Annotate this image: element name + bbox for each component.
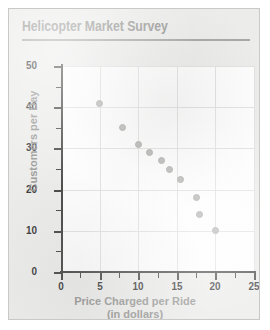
data-point (166, 166, 173, 173)
data-point (193, 194, 200, 201)
gridline-horizontal (61, 107, 254, 108)
gridline-vertical (177, 66, 178, 272)
y-tick-major (54, 107, 61, 109)
y-tick-minor (56, 210, 61, 211)
data-point (135, 141, 142, 148)
x-axis-title-line1: Price Charged per Ride (9, 295, 260, 308)
data-point (96, 100, 103, 107)
x-tick-label: 10 (127, 280, 149, 292)
x-tick-major (100, 273, 102, 280)
y-tick-major (54, 190, 61, 192)
gridline-vertical (254, 66, 255, 272)
page-title: Helicopter Market Survey (22, 18, 168, 34)
y-tick-minor (56, 169, 61, 170)
x-tick-major (215, 273, 217, 280)
x-tick-minor (158, 273, 159, 278)
y-tick-label: 50 (17, 59, 37, 71)
x-axis-title: Price Charged per Ride (in dollars) (9, 295, 260, 320)
title-divider (22, 39, 250, 41)
y-tick-major (54, 272, 61, 274)
x-tick-major (138, 273, 140, 280)
data-point (177, 176, 184, 183)
x-tick-label: 0 (50, 280, 72, 292)
gridline-vertical (215, 66, 216, 272)
x-tick-label: 25 (243, 280, 260, 292)
x-tick-minor (119, 273, 120, 278)
plot-area (61, 66, 254, 272)
x-tick-minor (196, 273, 197, 278)
y-tick-major (54, 231, 61, 233)
gridline-horizontal (61, 231, 254, 232)
y-tick-label: 0 (17, 265, 37, 277)
gridline-horizontal (61, 148, 254, 149)
x-tick-label: 20 (205, 280, 227, 292)
x-axis-title-line2: (in dollars) (9, 308, 260, 320)
chart-card: Helicopter Market Survey 010203040500510… (8, 8, 260, 320)
x-tick-label: 5 (89, 280, 111, 292)
gridline-horizontal (61, 190, 254, 191)
y-tick-label: 10 (17, 224, 37, 236)
y-tick-major (54, 148, 61, 150)
y-axis-title: Customers per Day (27, 76, 39, 206)
x-tick-minor (235, 273, 236, 278)
y-tick-minor (56, 251, 61, 252)
y-tick-minor (56, 87, 61, 88)
y-tick-major (54, 66, 61, 68)
y-axis-line (61, 64, 63, 274)
x-tick-major (254, 273, 256, 280)
y-tick-minor (56, 128, 61, 129)
gridline-vertical (138, 66, 139, 272)
x-tick-label: 15 (166, 280, 188, 292)
gridline-vertical (100, 66, 101, 272)
gridline-horizontal (61, 66, 254, 67)
x-tick-major (177, 273, 179, 280)
x-tick-minor (80, 273, 81, 278)
x-tick-major (61, 273, 63, 280)
